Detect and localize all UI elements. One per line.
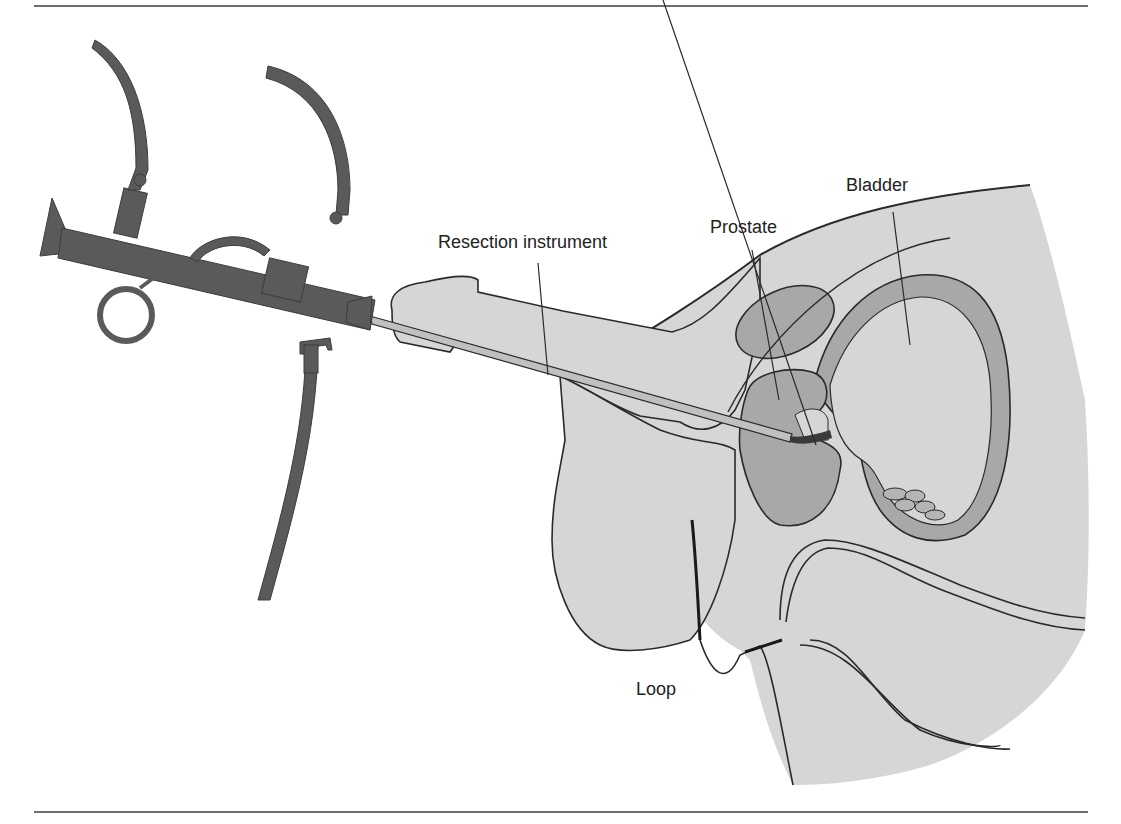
turp-illustration xyxy=(0,0,1121,824)
label-loop: Loop xyxy=(636,680,676,698)
resectoscope xyxy=(40,40,375,600)
label-resection-instrument: Resection instrument xyxy=(438,233,607,251)
label-bladder: Bladder xyxy=(846,176,908,194)
label-prostate: Prostate xyxy=(710,218,777,236)
